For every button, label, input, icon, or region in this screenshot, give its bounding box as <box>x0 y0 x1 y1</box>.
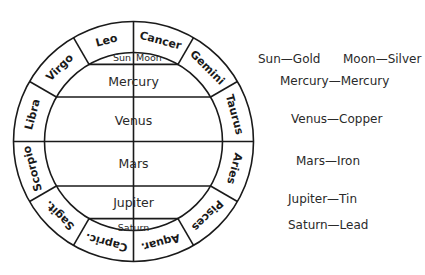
zodiac-taurus: Taurus <box>223 93 246 137</box>
planet-mercury: Mercury <box>108 74 159 89</box>
zodiac-capricorn: Capric. <box>84 231 129 255</box>
legend-mars-iron: Mars—Iron <box>296 154 360 168</box>
planet-mars: Mars <box>118 156 148 171</box>
zodiac-cancer: Cancer <box>138 29 183 53</box>
zodiac-libra: Libra <box>22 98 43 132</box>
zodiac-leo: Leo <box>94 31 119 49</box>
legend-venus-copper: Venus—Copper <box>291 112 382 126</box>
zodiac-planet-wheel: Cancer Gemini Taurus Aries Pisces Aquar.… <box>0 0 270 275</box>
radial-divider <box>74 38 90 65</box>
planet-sun: Sun <box>113 52 131 63</box>
planet-moon: Moon <box>136 52 162 63</box>
planet-saturn: Saturn <box>118 222 149 233</box>
planet-jupiter: Jupiter <box>112 195 155 210</box>
planet-venus: Venus <box>115 113 153 128</box>
zodiac-scorpio: Scorpio <box>20 144 45 193</box>
planet-labels: Sun Moon Mercury Venus Mars Jupiter Satu… <box>108 52 162 233</box>
zodiac-aries: Aries <box>224 152 245 186</box>
legend-mercury-mercury: Mercury—Mercury <box>280 74 389 88</box>
legend-sun-gold: Sun—Gold <box>258 52 320 66</box>
zodiac-gemini: Gemini <box>187 48 227 88</box>
legend-saturn-lead: Saturn—Lead <box>288 218 368 232</box>
zodiac-aquarius: Aquar. <box>140 231 182 254</box>
zodiac-pisces: Pisces <box>189 197 226 234</box>
zodiac-sagittarius: Sagit. <box>42 198 77 233</box>
legend-jupiter-tin: Jupiter—Tin <box>288 192 357 206</box>
legend-moon-silver: Moon—Silver <box>343 52 421 66</box>
